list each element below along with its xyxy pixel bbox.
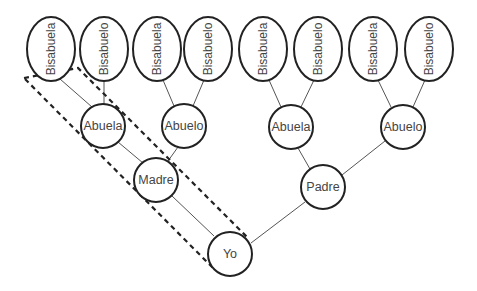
svg-text:Bisabuela: Bisabuela <box>150 22 164 75</box>
edge-padre-yo <box>251 202 305 243</box>
edge-bisabuela4-abuelo <box>378 80 391 107</box>
node-bisabuelo-2: Bisabuelo <box>184 17 232 81</box>
node-abuelo-maternal: Abuelo <box>162 104 206 148</box>
edge-bisabuelo3-abuela <box>301 80 314 107</box>
node-bisabuela-2: Bisabuela <box>133 17 181 81</box>
node-abuelo-paternal: Abuelo <box>381 105 425 149</box>
family-tree-diagram: Bisabuela Bisabuelo Bisabuela Bisabuelo … <box>0 0 477 291</box>
svg-text:Bisabuelo: Bisabuelo <box>97 22 111 75</box>
node-bisabuela-4: Bisabuela <box>349 17 397 81</box>
svg-text:Abuela: Abuela <box>84 119 123 133</box>
node-bisabuelo-1: Bisabuelo <box>80 17 128 81</box>
svg-text:Abuelo: Abuelo <box>384 120 423 134</box>
edge-abuela-padre <box>298 148 310 169</box>
node-padre: Padre <box>301 165 345 209</box>
svg-text:Bisabuela: Bisabuela <box>44 22 58 75</box>
svg-text:Yo: Yo <box>223 247 237 261</box>
node-abuela-maternal: Abuela <box>81 104 125 148</box>
edge-bisabuela3-abuela <box>269 80 281 107</box>
svg-text:Bisabuela: Bisabuela <box>366 22 380 75</box>
grandparents-row: Abuela Abuelo Abuela Abuelo <box>81 104 425 149</box>
node-yo: Yo <box>208 232 252 276</box>
node-bisabuela-3: Bisabuela <box>239 17 287 81</box>
edge-bisabuela2-abuelo <box>163 80 174 106</box>
tree-edges <box>60 79 425 243</box>
svg-text:Padre: Padre <box>306 180 339 194</box>
node-bisabuelo-4: Bisabuelo <box>405 17 453 81</box>
svg-text:Bisabuelo: Bisabuelo <box>201 22 215 75</box>
svg-text:Bisabuelo: Bisabuelo <box>422 22 436 75</box>
edge-madre-yo <box>172 196 214 236</box>
edge-bisabuelo2-abuelo <box>193 80 204 106</box>
node-abuela-paternal: Abuela <box>269 105 313 149</box>
edge-abuelo-padre <box>342 141 385 175</box>
node-madre: Madre <box>134 158 178 202</box>
great-grandparents-row: Bisabuela Bisabuelo Bisabuela Bisabuelo … <box>27 17 453 81</box>
svg-text:Abuela: Abuela <box>272 120 311 134</box>
svg-text:Madre: Madre <box>138 173 173 187</box>
edge-bisabuela1-abuela <box>60 79 92 107</box>
node-bisabuelo-3: Bisabuelo <box>294 17 342 81</box>
svg-text:Abuelo: Abuelo <box>165 119 204 133</box>
svg-text:Bisabuela: Bisabuela <box>256 22 270 75</box>
edge-bisabuelo4-abuelo <box>413 80 425 107</box>
svg-text:Bisabuelo: Bisabuelo <box>311 22 325 75</box>
edge-abuela-madre <box>118 142 143 163</box>
node-bisabuela-1: Bisabuela <box>27 17 75 81</box>
parents-row: Madre Padre <box>134 158 345 209</box>
